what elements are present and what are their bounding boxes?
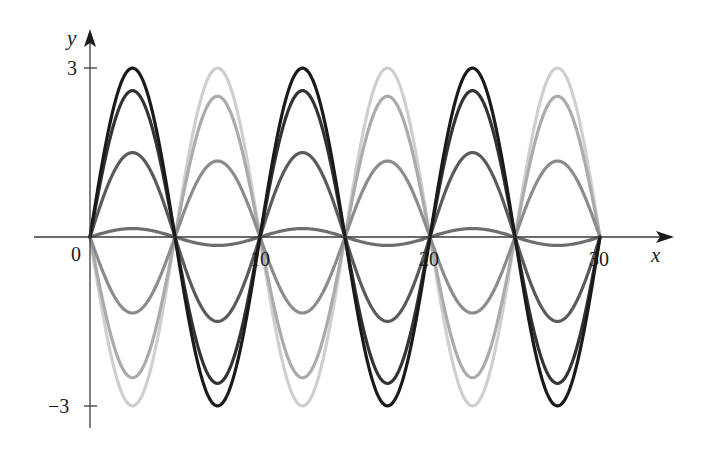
x-tick-label-10: 10 xyxy=(250,248,270,270)
x-tick-label-20: 20 xyxy=(419,248,439,270)
x-tick-label-30: 30 xyxy=(589,248,609,270)
y-axis-label: y xyxy=(65,26,77,50)
y-tick-label-3: 3 xyxy=(67,57,77,79)
x-axis-label: x xyxy=(650,243,661,267)
x-tick-label-0: 0 xyxy=(71,243,81,265)
y-tick-label-neg3: −3 xyxy=(48,395,69,417)
standing-wave-chart: y x 3 −3 0 10 20 30 xyxy=(0,0,704,456)
